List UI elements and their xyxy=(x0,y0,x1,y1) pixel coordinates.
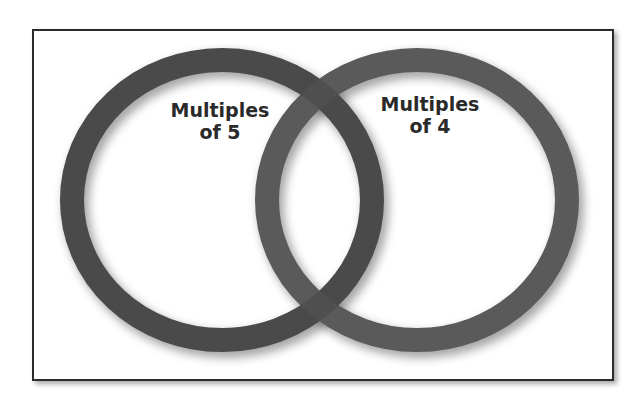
left-set-label: Multiples of 5 xyxy=(160,99,280,143)
venn-diagram xyxy=(0,0,644,402)
left-set-label-line1: Multiples xyxy=(160,99,280,121)
left-set-label-line2: of 5 xyxy=(160,121,280,143)
right-set-label-line1: Multiples xyxy=(370,93,490,115)
right-set-label-line2: of 4 xyxy=(370,115,490,137)
right-set-label: Multiples of 4 xyxy=(370,93,490,137)
